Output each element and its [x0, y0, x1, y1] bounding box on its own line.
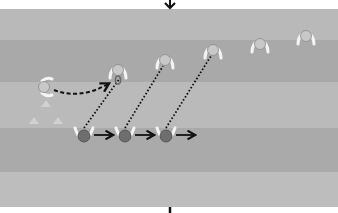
drill-canvas [0, 0, 338, 213]
field-stripe [0, 172, 338, 207]
field-stripe [0, 82, 338, 128]
drill-diagram [0, 0, 338, 213]
field-stripe [0, 9, 338, 40]
field [0, 9, 338, 207]
arrow-down-icon [165, 0, 175, 8]
